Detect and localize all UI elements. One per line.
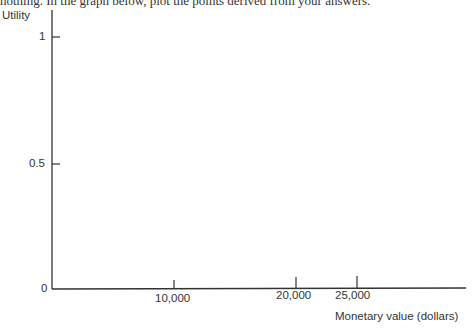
x-tick-label-10000: 10,000 — [155, 292, 190, 304]
y-tick-label-0.5: 0.5 — [29, 157, 45, 169]
y-axis-label: Utility — [2, 9, 30, 21]
utility-chart — [0, 0, 474, 329]
x-tick-label-25000: 25,000 — [335, 289, 370, 301]
y-tick-label-1: 1 — [39, 30, 45, 42]
x-axis — [52, 288, 466, 289]
y-tick-label-0: 0 — [41, 282, 47, 294]
x-tick-label-20000: 20,000 — [276, 289, 311, 301]
x-axis-label: Monetary value (dollars) — [335, 310, 458, 322]
